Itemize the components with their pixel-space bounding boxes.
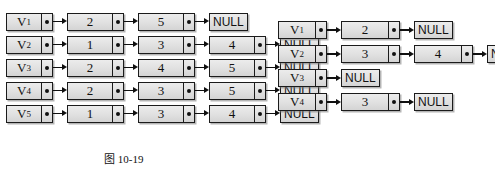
list-data-node: 5 xyxy=(209,82,266,100)
list-data-node: 3 xyxy=(138,36,195,54)
vertex-subscript: 3 xyxy=(299,73,304,83)
list-data-node: 4 xyxy=(209,105,266,123)
linked-list-row: V125NULL xyxy=(6,10,319,33)
next-pointer-cell xyxy=(41,83,52,99)
vertex-label: V5 xyxy=(7,106,41,122)
next-pointer-cell xyxy=(112,60,123,76)
pointer-arrow-icon xyxy=(53,105,67,123)
pointer-arrow-icon xyxy=(473,45,487,63)
node-value: 1 xyxy=(68,106,112,122)
vertex-subscript: 1 xyxy=(299,25,304,35)
next-pointer-cell xyxy=(254,106,265,122)
pointer-arrow-icon xyxy=(195,105,209,123)
node-value: 5 xyxy=(210,60,254,76)
linked-list-row: V2134NULL xyxy=(6,33,319,56)
next-pointer-cell xyxy=(461,46,472,62)
list-head-node: V3 xyxy=(278,69,327,87)
null-terminator-box: NULL xyxy=(414,93,453,111)
list-head-node: V1 xyxy=(278,21,327,39)
next-pointer-cell xyxy=(315,46,326,62)
linked-list-rows: V12NULLV234NULLV3NULLV43NULL xyxy=(278,18,495,114)
list-data-node: 5 xyxy=(209,59,266,77)
next-pointer-cell xyxy=(183,14,194,30)
clipped-top-text-line: · · ·· ·· ···· ·· ···· ···· ·· ·· ··· ··… xyxy=(0,0,495,6)
next-pointer-cell xyxy=(254,37,265,53)
list-data-node: 4 xyxy=(138,59,195,77)
linked-list-row: V5134NULL xyxy=(6,102,319,125)
next-pointer-cell xyxy=(112,106,123,122)
list-head-node: V5 xyxy=(6,105,53,123)
list-data-node: 5 xyxy=(138,13,195,31)
list-data-node: 3 xyxy=(138,82,195,100)
next-pointer-cell xyxy=(315,94,326,110)
pointer-arrow-icon xyxy=(327,21,341,39)
list-data-node: 2 xyxy=(67,59,124,77)
list-head-node: V2 xyxy=(278,45,327,63)
pointer-arrow-icon xyxy=(400,45,414,63)
caption-cjk-label: 图 xyxy=(104,153,115,166)
node-value: 4 xyxy=(139,60,183,76)
next-pointer-cell xyxy=(41,14,52,30)
null-terminator-box: NULL xyxy=(414,21,453,39)
null-terminator-box: NULL xyxy=(209,13,248,31)
linked-list-row: V234NULL xyxy=(278,42,495,66)
pointer-arrow-icon xyxy=(195,82,209,100)
vertex-subscript: 2 xyxy=(26,40,31,50)
linked-list-row: V12NULL xyxy=(278,18,495,42)
list-data-node: 1 xyxy=(67,105,124,123)
list-data-node: 1 xyxy=(67,36,124,54)
node-value: 2 xyxy=(68,14,112,30)
null-terminator-box: NULL xyxy=(341,69,380,87)
pointer-arrow-icon xyxy=(400,21,414,39)
pointer-arrow-icon xyxy=(124,105,138,123)
pointer-arrow-icon xyxy=(327,45,341,63)
node-value: 1 xyxy=(68,37,112,53)
vertex-label: V3 xyxy=(279,70,315,86)
pointer-arrow-icon xyxy=(53,59,67,77)
list-data-node: 3 xyxy=(138,105,195,123)
next-pointer-cell xyxy=(388,22,399,38)
node-value: 4 xyxy=(415,46,461,62)
list-head-node: V4 xyxy=(278,93,327,111)
vertex-subscript: 1 xyxy=(26,17,31,27)
node-value: 2 xyxy=(68,83,112,99)
next-pointer-cell xyxy=(183,106,194,122)
pointer-arrow-icon xyxy=(327,69,341,87)
vertex-subscript: 4 xyxy=(299,97,304,107)
node-value: 3 xyxy=(342,46,388,62)
linked-list-row: V3245NULL xyxy=(6,56,319,79)
vertex-subscript: 5 xyxy=(26,109,31,119)
figure-caption-left: 图 10-19 xyxy=(104,150,143,166)
pointer-arrow-icon xyxy=(400,93,414,111)
linked-list-rows: V125NULLV2134NULLV3245NULLV4235NULLV5134… xyxy=(6,10,319,125)
node-value: 4 xyxy=(210,37,254,53)
vertex-label: V2 xyxy=(7,37,41,53)
next-pointer-cell xyxy=(183,37,194,53)
next-pointer-cell xyxy=(183,83,194,99)
next-pointer-cell xyxy=(254,83,265,99)
node-value: 3 xyxy=(139,83,183,99)
node-value: 2 xyxy=(68,60,112,76)
list-head-node: V1 xyxy=(6,13,53,31)
list-head-node: V3 xyxy=(6,59,53,77)
list-data-node: 4 xyxy=(414,45,473,63)
pointer-arrow-icon xyxy=(327,93,341,111)
node-value: 3 xyxy=(139,37,183,53)
list-data-node: 3 xyxy=(341,45,400,63)
vertex-subscript: 3 xyxy=(26,63,31,73)
next-pointer-cell xyxy=(41,106,52,122)
next-pointer-cell xyxy=(41,37,52,53)
pointer-arrow-icon xyxy=(124,82,138,100)
linked-list-row: V43NULL xyxy=(278,90,495,114)
list-data-node: 2 xyxy=(341,21,400,39)
next-pointer-cell xyxy=(254,60,265,76)
pointer-arrow-icon xyxy=(124,13,138,31)
clipped-top-text: · · ·· ·· ···· ·· ···· ···· ·· ·· ··· ··… xyxy=(0,0,495,3)
vertex-label: V3 xyxy=(7,60,41,76)
node-value: 2 xyxy=(342,22,388,38)
list-data-node: 3 xyxy=(341,93,400,111)
pointer-arrow-icon xyxy=(195,36,209,54)
list-data-node: 2 xyxy=(67,13,124,31)
list-data-node: 2 xyxy=(67,82,124,100)
next-pointer-cell xyxy=(112,14,123,30)
